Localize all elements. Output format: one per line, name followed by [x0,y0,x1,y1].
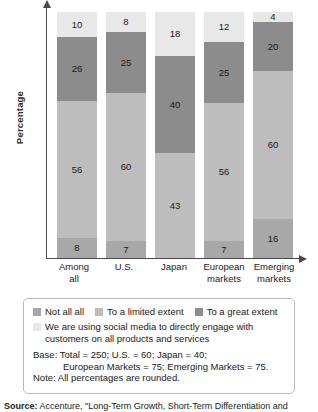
legend-label-2: To a great extent [207,306,278,317]
bar-segment: 4 [253,12,293,22]
bar-column: 1026568 [57,12,97,258]
chart-page: Percentage 10265688256071840430122556742… [0,0,318,412]
bar-segment-value: 60 [121,162,132,172]
bar-segment: 56 [57,101,97,239]
x-tick-line: Japan [149,261,199,273]
bar-segment-value: 20 [268,42,279,52]
bar-segment: 43 [155,153,195,258]
source-line: Source: Accenture, "Long-Term Growth, Sh… [4,401,318,412]
x-tick-line: all [49,273,99,285]
x-tick-line: Among [49,261,99,273]
bar-segment: 7 [204,241,244,258]
legend-label-1: To a limited extent [107,306,184,317]
bar-segment: 20 [253,22,293,71]
bar-segment: 10 [57,12,97,37]
bar-segment-value: 56 [219,167,230,177]
legend-item: To a great extent [195,306,278,317]
bar-segment-value: 56 [72,165,83,175]
bar-segment: 60 [106,93,146,241]
bar-segment: 60 [253,71,293,219]
bar-segment-value: 18 [170,29,181,39]
x-tick-line: markets [249,273,299,285]
legend-swatch-1 [95,308,103,316]
base-line-2: European Markets = 75; Emerging Markets … [33,361,286,373]
bar-segment: 16 [253,219,293,258]
bar-segment: 12 [204,12,244,42]
legend-row-wrapped: We are using social media to directly en… [33,321,286,344]
x-tick-line: markets [199,273,249,285]
bar-column: 825607 [106,12,146,258]
bar-segment-value: 16 [268,234,279,244]
bars-container: 1026568825607184043012255674206016 [47,12,299,258]
x-tick-among-all: Amongall [49,261,99,284]
bar-segment-value: 60 [268,140,279,150]
bar-segment-value: 12 [219,22,230,32]
x-tick-u-s: U.S. [99,261,149,284]
bar-column: 4206016 [253,12,293,258]
bar-segment-value: 25 [121,58,132,68]
bar-segment-value: 7 [221,245,226,255]
legend-label-0: Not all all [45,306,84,317]
bar-segment-value: 4 [270,12,275,22]
bar-segment-value: 8 [123,17,128,27]
legend-swatch-2 [195,308,203,316]
arrow-up-icon [43,0,51,8]
y-axis-label: Percentage [14,78,25,158]
x-tick-european-markets: Europeanmarkets [199,261,249,284]
legend-swatch-0 [33,308,41,316]
stacked-bar-chart: Percentage 10265688256071840430122556742… [0,0,318,292]
rounding-note: Note: All percentages are rounded. [33,372,180,383]
x-tick-line: Emerging [249,261,299,273]
x-tick-line: European [199,261,249,273]
x-axis-line [46,258,300,259]
source-label: Source: [4,401,38,411]
x-tick-emerging-markets: Emergingmarkets [249,261,299,284]
arrow-right-icon [299,255,307,263]
bar-segment: 26 [57,37,97,101]
base-line-1: Base: Total = 250; U.S. = 60; Japan = 40… [33,349,207,360]
legend-swatch-social-media [33,323,41,331]
bar-column: 1225567 [204,12,244,258]
x-tick-japan: Japan [149,261,199,284]
bar-segment-value: 40 [170,100,181,110]
bar-column: 1840430 [155,12,195,258]
bar-segment: 7 [106,241,146,258]
bar-segment: 25 [106,32,146,94]
bar-segment-value: 43 [170,201,181,211]
bar-segment: 8 [106,12,146,32]
bar-segment: 8 [57,238,97,258]
bar-segment: 25 [204,42,244,104]
bar-segment-value: 8 [74,243,79,253]
bar-segment-value: 7 [123,245,128,255]
x-tick-line: U.S. [99,261,149,273]
bar-segment: 40 [155,56,195,153]
source-text: Accenture, "Long-Term Growth, Short-Term… [40,401,288,411]
legend-item: To a limited extent [95,306,184,317]
bar-segment-value: 10 [72,20,83,30]
legend-item: Not all all [33,306,84,317]
bar-segment: 56 [204,103,244,241]
x-axis-tick-labels: AmongallU.S.JapanEuropeanmarketsEmerging… [47,261,299,284]
bar-segment-value: 25 [219,68,230,78]
legend-row-primary: Not all allTo a limited extentTo a great… [33,306,286,317]
bar-segment-value: 26 [72,64,83,74]
legend-label-social-media: We are using social media to directly en… [45,321,283,344]
bar-segment: 18 [155,12,195,56]
base-note: Base: Total = 250; U.S. = 60; Japan = 40… [33,349,286,384]
legend-box: Not all allTo a limited extentTo a great… [23,298,295,394]
